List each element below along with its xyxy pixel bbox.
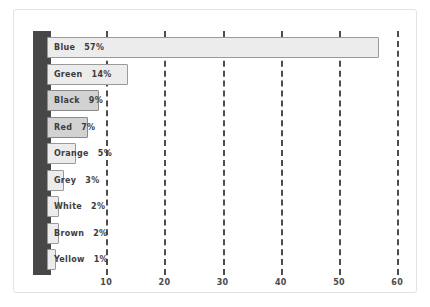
- bar-label: Orange5%: [54, 143, 112, 164]
- bar-value-label: 14%: [92, 64, 112, 85]
- bar-label: Brown2%: [54, 223, 107, 244]
- x-tick-label: 20: [159, 278, 171, 287]
- x-tick-label: 10: [100, 278, 112, 287]
- bar-value-label: 3%: [85, 170, 99, 191]
- bar-value-label: 2%: [93, 223, 107, 244]
- bar-label: Black9%: [54, 90, 103, 111]
- gridline: [164, 31, 166, 275]
- bar-label: Yellow1%: [54, 249, 108, 270]
- x-tick-label: 40: [275, 278, 287, 287]
- bar-category-label: Orange: [54, 143, 89, 164]
- bar-label: Blue57%: [54, 37, 104, 58]
- bar-category-label: Blue: [54, 37, 75, 58]
- bar-category-label: White: [54, 196, 82, 217]
- x-tick-label: 60: [391, 278, 403, 287]
- bar-label: Green14%: [54, 64, 112, 85]
- bar-value-label: 57%: [84, 37, 104, 58]
- bar-value-label: 1%: [94, 249, 108, 270]
- gridline: [339, 31, 341, 275]
- bar-value-label: 5%: [98, 143, 112, 164]
- gridline: [397, 31, 399, 275]
- gridline: [223, 31, 225, 275]
- bar-label: White2%: [54, 196, 105, 217]
- bar-value-label: 9%: [89, 90, 103, 111]
- bar-label: Red7%: [54, 117, 95, 138]
- x-tick-label: 30: [217, 278, 229, 287]
- bar-category-label: Red: [54, 117, 72, 138]
- bar-label: Grey3%: [54, 170, 100, 191]
- bar-category-label: Brown: [54, 223, 84, 244]
- bar-value-label: 7%: [81, 117, 95, 138]
- bar-value-label: 2%: [91, 196, 105, 217]
- x-tick-label: 50: [333, 278, 345, 287]
- bar-category-label: Black: [54, 90, 80, 111]
- plot-area: Blue57%Green14%Black9%Red7%Orange5%Grey3…: [14, 10, 418, 294]
- gridline: [281, 31, 283, 275]
- bar-category-label: Yellow: [54, 249, 85, 270]
- bar-category-label: Green: [54, 64, 83, 85]
- bar-category-label: Grey: [54, 170, 76, 191]
- chart-frame: Blue57%Green14%Black9%Red7%Orange5%Grey3…: [13, 9, 417, 293]
